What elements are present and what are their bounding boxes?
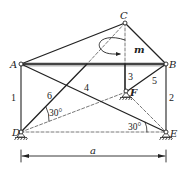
member-label-5: 5: [152, 75, 157, 86]
label-E: E: [169, 128, 178, 139]
joint-C: [123, 21, 127, 25]
member-label-1: 1: [11, 92, 16, 103]
member-label-4: 4: [84, 82, 89, 93]
joint-A: [19, 62, 23, 66]
joint-B: [164, 62, 168, 66]
dimension-arrow-right-icon: [158, 154, 165, 158]
bar-CB: [125, 23, 166, 64]
moment-arrowhead-icon: [116, 52, 121, 56]
joint-E: [164, 130, 168, 134]
angle-label-D: 30°: [49, 108, 63, 118]
truss-diagram: A B C D E F 1 2 3 4 5 6 m 30° 30° a: [0, 0, 189, 178]
label-D: D: [11, 127, 20, 138]
angle-label-E: 30°: [128, 122, 142, 132]
dashed-line-C-to-member6: [87, 23, 125, 64]
label-C: C: [120, 10, 128, 21]
dashed-lines: [21, 23, 166, 132]
dimension-label: a: [90, 145, 96, 156]
dimension-arrow-left-icon: [22, 154, 29, 158]
member-label-3: 3: [128, 71, 133, 82]
member-label-6: 6: [47, 90, 52, 101]
label-F: F: [129, 87, 138, 98]
member-4: [21, 64, 166, 132]
bar-AC: [21, 23, 125, 64]
label-A: A: [9, 59, 17, 70]
label-B: B: [168, 59, 176, 70]
moment-label: m: [134, 44, 145, 55]
dashed-line-DF: [21, 92, 126, 132]
member-6: [21, 64, 87, 132]
moment-arc: [99, 38, 125, 54]
joint-F: [124, 89, 128, 93]
member-label-2: 2: [169, 92, 174, 103]
